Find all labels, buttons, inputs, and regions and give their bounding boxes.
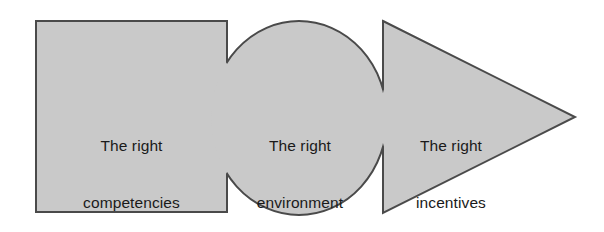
diagram-canvas: The right competencies The right environ… <box>0 0 604 232</box>
incentives-triangle-fill <box>383 21 575 213</box>
shape-fills <box>36 21 575 215</box>
diagram-shapes <box>0 0 604 232</box>
competencies-rect-fill <box>36 21 227 212</box>
